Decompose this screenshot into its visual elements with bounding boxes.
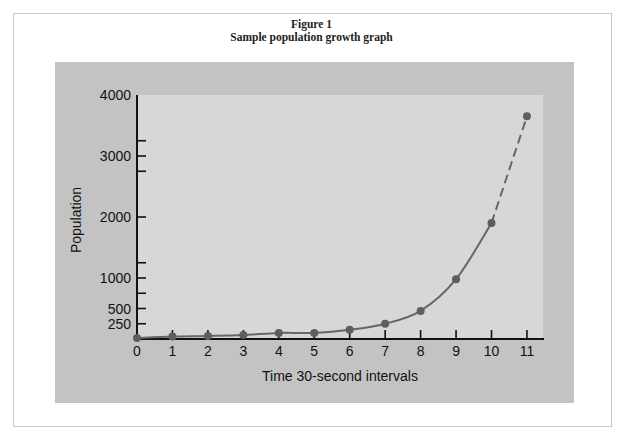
data-point-marker — [204, 332, 212, 340]
x-tick-label: 3 — [239, 343, 247, 359]
data-point-marker — [133, 334, 141, 342]
data-point-marker — [275, 329, 283, 337]
data-point-marker — [417, 307, 425, 315]
x-tick-label: 10 — [484, 343, 500, 359]
population-growth-chart: 2505001000200030004000 01234567891011 Ti… — [0, 0, 623, 437]
x-tick-label: 4 — [275, 343, 283, 359]
data-point-marker — [168, 333, 176, 341]
x-tick-label: 7 — [381, 343, 389, 359]
x-tick-label: 11 — [520, 343, 535, 359]
y-tick-label: 3000 — [100, 148, 131, 164]
y-tick-label: 4000 — [100, 87, 131, 103]
x-tick-label: 2 — [204, 343, 212, 359]
data-point-marker — [488, 219, 496, 227]
data-point-marker — [381, 320, 389, 328]
data-point-marker — [239, 331, 247, 339]
data-point-marker — [310, 329, 318, 337]
data-point-marker — [346, 326, 354, 334]
data-point-marker — [523, 112, 531, 120]
x-axis-label: Time 30-second intervals — [262, 368, 418, 384]
x-tick-label: 5 — [310, 343, 318, 359]
x-tick-label: 6 — [346, 343, 354, 359]
x-tick-label: 8 — [417, 343, 425, 359]
plot-area — [137, 95, 543, 339]
x-tick-label: 9 — [452, 343, 460, 359]
y-tick-label: 1000 — [100, 270, 131, 286]
x-tick-label: 1 — [169, 343, 177, 359]
y-tick-label: 250 — [108, 316, 132, 332]
y-tick-label: 500 — [108, 301, 132, 317]
data-point-marker — [452, 275, 460, 283]
x-tick-label: 0 — [133, 343, 141, 359]
y-tick-label: 2000 — [100, 209, 131, 225]
y-axis-label: Population — [68, 187, 84, 253]
